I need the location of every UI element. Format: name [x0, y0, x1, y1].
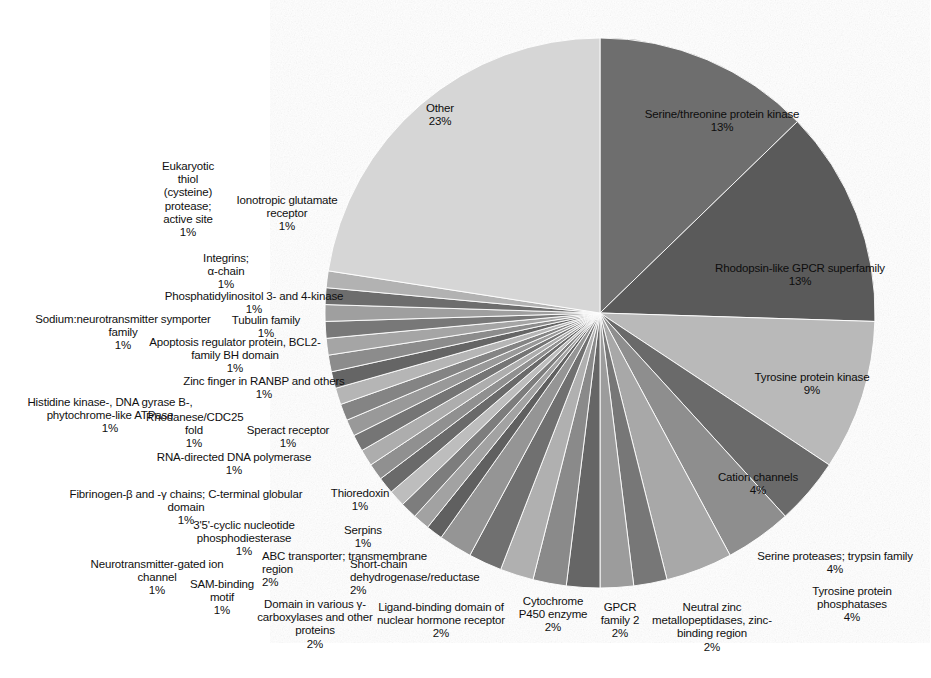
slice-label-ligand-binding-domain-nuclear-hormone-receptor: Ligand-binding domain of nuclear hormone…	[368, 601, 514, 641]
slice-label-neurotransmitter-gated-ion-channel: Neurotransmitter-gated ion channel 1%	[90, 558, 224, 598]
pie-slice	[328, 38, 600, 313]
pie-chart-figure: Other 23% Serine/threonine protein kinas…	[0, 0, 931, 678]
slice-label-zinc-finger-in-ranbp-and-others: Zinc finger in RANBP and others 1%	[178, 375, 350, 401]
slice-label-domain-gamma-carboxylases: Domain in various γ-carboxylases and oth…	[252, 598, 378, 651]
slice-label-sodium-neurotransmitter-symporter-family: Sodium:neurotransmitter symporter family…	[28, 313, 218, 353]
slice-label-serine-proteases-trypsin-family: Serine proteases; trypsin family 4%	[742, 550, 928, 576]
slice-label-cation-channels: Cation channels 4%	[704, 471, 812, 497]
slice-label-serine-threonine-protein-kinase: Serine/threonine protein kinase 13%	[624, 108, 820, 134]
slice-label-ionotropic-glutamate-receptor: Ionotropic glutamate receptor 1%	[232, 194, 342, 234]
slice-label-eukaryotic-thiol-cysteine-protease-active-site: Eukaryotic thiol (cysteine) protease; ac…	[154, 160, 222, 239]
slice-label-histidine-kinase-dna-gyrase-b-phytochrome-like-atpase: Histidine kinase-, DNA gyrase B-, phytoc…	[14, 396, 206, 436]
slice-label-tyrosine-protein-phosphatases: Tyrosine protein phosphatases 4%	[800, 585, 904, 625]
slice-label-neutral-zinc-metallopeptidases: Neutral zinc metallopeptidases, zinc-bin…	[636, 601, 788, 654]
slice-label-integrins-alpha-chain: Integrins; α-chain 1%	[200, 252, 252, 292]
slice-label-rna-directed-dna-polymerase: RNA-directed DNA polymerase 1%	[140, 451, 328, 477]
slice-label-gpcr-family-2: GPCR family 2 2%	[594, 601, 646, 641]
slice-label-thioredoxin: Thioredoxin 1%	[318, 487, 402, 513]
slice-label-tyrosine-protein-kinase: Tyrosine protein kinase 9%	[736, 371, 888, 397]
slice-label-tubulin-family: Tubulin family 1%	[216, 314, 316, 340]
slice-label-other: Other 23%	[398, 102, 482, 128]
slice-label-speract-receptor: Speract receptor 1%	[236, 424, 340, 450]
slice-label-phosphatidylinositol-3-and-4-kinase: Phosphatidylinositol 3- and 4-kinase 1%	[140, 290, 368, 316]
slice-label-cytochrome-p450-enzyme: Cytochrome P450 enzyme 2%	[518, 595, 588, 635]
slice-label-rhodopsin-like-gpcr-superfamily: Rhodopsin-like GPCR superfamily 13%	[702, 262, 898, 288]
slice-label-serpins: Serpins 1%	[330, 524, 396, 550]
slice-label-fibrinogen-beta-gamma-chains: Fibrinogen-β and -γ chains; C-terminal g…	[62, 488, 310, 528]
